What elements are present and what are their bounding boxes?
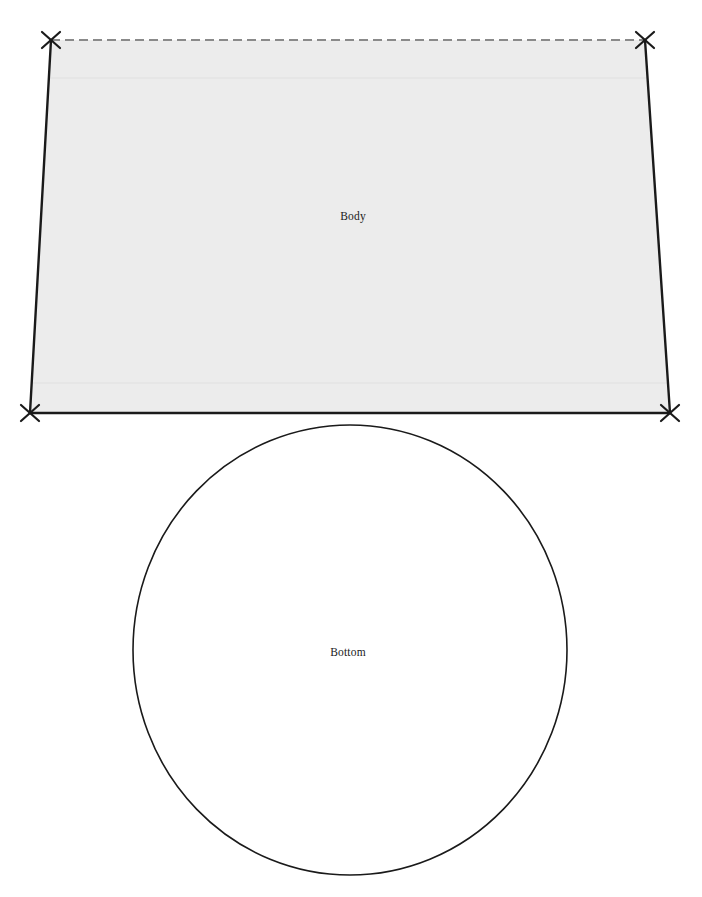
bottom-piece-label: Bottom: [330, 646, 366, 658]
pattern-diagram-canvas: Body Bottom: [0, 0, 702, 897]
pattern-piece-bottom[interactable]: Bottom: [133, 425, 567, 875]
pattern-diagram-svg: Body Bottom: [0, 0, 702, 897]
body-piece-label: Body: [340, 210, 366, 223]
pattern-piece-body[interactable]: Body: [21, 32, 679, 421]
body-piece-fill: [30, 40, 670, 413]
